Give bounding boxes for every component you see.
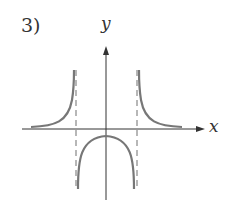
right-branch: [139, 70, 182, 127]
y-axis-arrow-icon: [103, 46, 109, 55]
left-branch: [31, 70, 74, 127]
x-axis-arrow-icon: [196, 126, 205, 132]
plot: [0, 0, 232, 206]
figure: 3) y x: [0, 0, 232, 206]
